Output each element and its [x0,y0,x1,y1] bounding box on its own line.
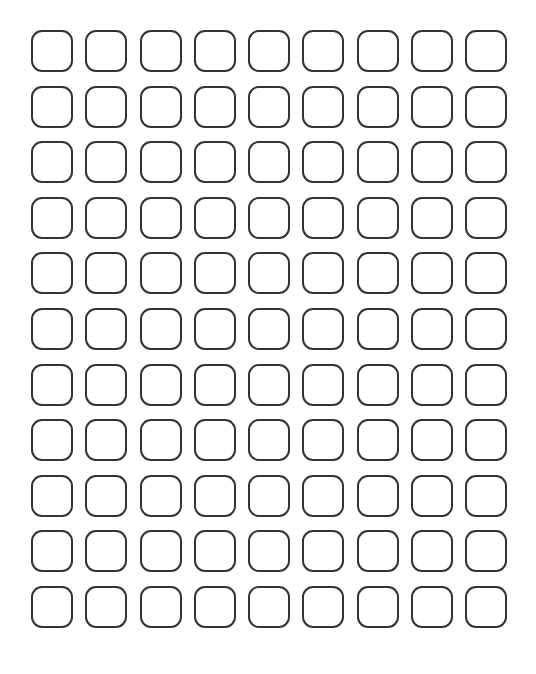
grid-cell[interactable] [248,586,290,628]
grid-cell[interactable] [357,197,399,239]
grid-cell[interactable] [302,141,344,183]
grid-cell[interactable] [85,419,127,461]
grid-cell[interactable] [465,308,507,350]
grid-cell[interactable] [140,475,182,517]
grid-cell[interactable] [248,141,290,183]
grid-cell[interactable] [140,86,182,128]
grid-cell[interactable] [357,419,399,461]
grid-cell[interactable] [248,252,290,294]
grid-cell[interactable] [302,86,344,128]
grid-cell[interactable] [248,86,290,128]
grid-cell[interactable] [85,530,127,572]
grid-cell[interactable] [31,141,73,183]
grid-cell[interactable] [248,475,290,517]
grid-cell[interactable] [465,475,507,517]
grid-cell[interactable] [194,141,236,183]
grid-cell[interactable] [194,86,236,128]
grid-cell[interactable] [357,364,399,406]
grid-cell[interactable] [85,197,127,239]
grid-cell[interactable] [194,308,236,350]
grid-cell[interactable] [302,475,344,517]
grid-cell[interactable] [302,419,344,461]
grid-cell[interactable] [411,308,453,350]
grid-cell[interactable] [357,475,399,517]
grid-cell[interactable] [194,364,236,406]
grid-cell[interactable] [140,308,182,350]
grid-cell[interactable] [248,30,290,72]
grid-cell[interactable] [31,197,73,239]
grid-cell[interactable] [411,86,453,128]
grid-cell[interactable] [302,308,344,350]
grid-cell[interactable] [31,308,73,350]
grid-cell[interactable] [31,30,73,72]
grid-cell[interactable] [302,364,344,406]
grid-cell[interactable] [465,141,507,183]
grid-cell[interactable] [248,419,290,461]
grid-cell[interactable] [85,252,127,294]
grid-cell[interactable] [194,475,236,517]
grid-cell[interactable] [411,475,453,517]
rounded-square-grid [31,30,507,628]
grid-cell[interactable] [85,586,127,628]
grid-cell[interactable] [465,530,507,572]
grid-cell[interactable] [411,586,453,628]
grid-cell[interactable] [465,252,507,294]
grid-cell[interactable] [194,197,236,239]
grid-cell[interactable] [411,197,453,239]
grid-cell[interactable] [85,86,127,128]
grid-cell[interactable] [140,30,182,72]
grid-cell[interactable] [465,586,507,628]
grid-cell[interactable] [465,197,507,239]
grid-cell[interactable] [194,419,236,461]
grid-cell[interactable] [302,530,344,572]
grid-cell[interactable] [411,141,453,183]
grid-cell[interactable] [411,364,453,406]
grid-cell[interactable] [31,419,73,461]
grid-cell[interactable] [31,252,73,294]
grid-cell[interactable] [85,475,127,517]
grid-cell[interactable] [140,530,182,572]
grid-cell[interactable] [248,530,290,572]
grid-cell[interactable] [140,252,182,294]
grid-cell[interactable] [140,419,182,461]
grid-cell[interactable] [140,197,182,239]
grid-cell[interactable] [357,530,399,572]
grid-cell[interactable] [194,530,236,572]
grid-cell[interactable] [85,30,127,72]
grid-cell[interactable] [31,364,73,406]
grid-cell[interactable] [411,30,453,72]
grid-cell[interactable] [194,586,236,628]
grid-cell[interactable] [302,197,344,239]
grid-cell[interactable] [85,141,127,183]
grid-cell[interactable] [465,419,507,461]
grid-cell[interactable] [140,364,182,406]
grid-cell[interactable] [302,586,344,628]
grid-cell[interactable] [411,419,453,461]
grid-cell[interactable] [357,586,399,628]
grid-cell[interactable] [31,475,73,517]
grid-cell[interactable] [85,308,127,350]
grid-cell[interactable] [140,586,182,628]
grid-cell[interactable] [140,141,182,183]
grid-cell[interactable] [357,86,399,128]
grid-cell[interactable] [194,30,236,72]
grid-cell[interactable] [31,530,73,572]
grid-cell[interactable] [465,364,507,406]
grid-cell[interactable] [357,141,399,183]
grid-cell[interactable] [465,86,507,128]
grid-cell[interactable] [248,197,290,239]
grid-cell[interactable] [357,252,399,294]
grid-cell[interactable] [31,586,73,628]
grid-cell[interactable] [248,308,290,350]
grid-cell[interactable] [357,308,399,350]
grid-cell[interactable] [248,364,290,406]
grid-cell[interactable] [411,530,453,572]
grid-cell[interactable] [465,30,507,72]
grid-cell[interactable] [357,30,399,72]
grid-cell[interactable] [85,364,127,406]
grid-cell[interactable] [194,252,236,294]
grid-cell[interactable] [302,252,344,294]
grid-cell[interactable] [31,86,73,128]
grid-cell[interactable] [411,252,453,294]
grid-cell[interactable] [302,30,344,72]
